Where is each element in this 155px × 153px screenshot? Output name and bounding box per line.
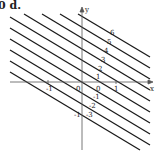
- level-label-m2: -2: [89, 102, 96, 110]
- level-label-m3: -3: [86, 111, 93, 119]
- x-tick-label-neg: -1: [46, 85, 53, 93]
- level-label-1: 1: [96, 73, 100, 81]
- y-axis-arrow-icon: [80, 7, 84, 12]
- level-label-4: 4: [104, 47, 109, 55]
- level-line-3: [24, 14, 150, 90]
- x-axis-arrow-icon: [148, 80, 153, 84]
- contour-figure: 0 d. y x -1 1 0 -1 6 5 4 3 2 1 0 -1 -2 -…: [0, 0, 155, 153]
- level-label-5: 5: [107, 38, 111, 46]
- x-axis-label: x: [150, 85, 154, 93]
- level-label-6: 6: [110, 29, 115, 37]
- level-label-2: 2: [98, 65, 102, 73]
- level-label-m1: -1: [93, 93, 100, 101]
- level-line-m2: [10, 61, 150, 145]
- y-tick-label-neg: -1: [74, 111, 81, 119]
- level-label-3: 3: [101, 56, 105, 64]
- x-tick-label-pos: 1: [114, 85, 118, 93]
- level-line-1: [10, 28, 150, 112]
- y-axis-label: y: [84, 6, 89, 14]
- origin-label: 0: [76, 85, 80, 93]
- figure-label: 0 d.: [0, 0, 21, 12]
- level-label-0: 0: [96, 85, 100, 93]
